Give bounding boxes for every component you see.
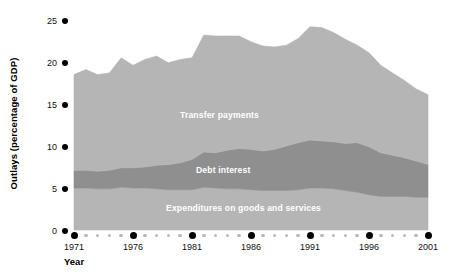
x-minor-tick-dot-icon-1990 — [296, 234, 300, 238]
x-tick-label-1971: 1971 — [54, 242, 94, 252]
x-tick-label-1986: 1986 — [231, 242, 271, 252]
x-major-tick-dot-icon-1981 — [189, 232, 196, 239]
x-minor-tick-dot-icon-1987 — [261, 234, 265, 238]
x-major-tick-dot-icon-1991 — [307, 232, 314, 239]
area-series-transfer-payments — [74, 27, 428, 171]
x-minor-tick-dot-icon-1977 — [143, 234, 147, 238]
x-tick-label-1991: 1991 — [290, 242, 330, 252]
series-label-transfer-payments: Transfer payments — [180, 110, 259, 120]
series-label-expenditures: Expenditures on goods and services — [166, 203, 321, 213]
x-minor-tick-dot-icon-1985 — [237, 234, 241, 238]
x-minor-tick-dot-icon-1975 — [119, 234, 123, 238]
x-minor-tick-dot-icon-1982 — [202, 234, 206, 238]
area-chart-svg — [0, 0, 451, 279]
x-minor-tick-dot-icon-1972 — [84, 234, 88, 238]
x-major-tick-dot-icon-1976 — [130, 232, 137, 239]
x-tick-label-1981: 1981 — [172, 242, 212, 252]
x-minor-tick-dot-icon-1995 — [355, 234, 359, 238]
x-minor-tick-dot-icon-1980 — [178, 234, 182, 238]
chart-figure: Outlays (percentage of GDP) 0510152025 T… — [0, 0, 451, 279]
x-minor-tick-dot-icon-1997 — [379, 234, 383, 238]
x-minor-tick-dot-icon-2000 — [414, 234, 418, 238]
x-major-tick-dot-icon-1971 — [71, 232, 78, 239]
x-major-tick-dot-icon-1986 — [248, 232, 255, 239]
plot-area — [0, 0, 451, 279]
x-tick-label-1976: 1976 — [113, 242, 153, 252]
x-minor-tick-dot-icon-1992 — [320, 234, 324, 238]
x-tick-label-2001: 2001 — [408, 242, 448, 252]
x-tick-label-1996: 1996 — [349, 242, 389, 252]
x-axis-title: Year — [64, 256, 84, 267]
series-label-debt-interest: Debt interest — [196, 165, 250, 175]
x-major-tick-dot-icon-1996 — [366, 232, 373, 239]
x-major-tick-dot-icon-2001 — [425, 232, 432, 239]
